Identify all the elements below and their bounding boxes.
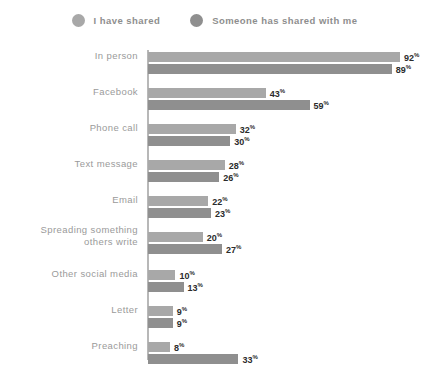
bar-row: 59% (148, 100, 329, 110)
bar-row: 92% (148, 52, 419, 62)
circle-swatch-icon (72, 14, 85, 27)
bar-row: 20% (148, 232, 222, 242)
bar-value-label: 20% (207, 232, 222, 243)
bar-value-label: 33% (242, 354, 257, 365)
bar-row: 33% (148, 354, 258, 364)
bar-row: 23% (148, 208, 230, 218)
bar-value-label: 26% (223, 172, 238, 183)
bar-row: 30% (148, 136, 250, 146)
bar-row: 13% (148, 282, 203, 292)
bar-row: 9% (148, 318, 187, 328)
bar-row: 9% (148, 306, 187, 316)
bar-row: 32% (148, 124, 255, 134)
plot-area: In person 92% 89% Facebook (0, 44, 429, 366)
horizontal-bar-chart: I have shared Someone has shared with me… (0, 0, 429, 378)
bar-row: 27% (148, 244, 241, 254)
category-label-line: Letter (6, 304, 138, 316)
bar-value-label: 43% (270, 88, 285, 99)
bar-group: Letter 9% 9% (0, 304, 429, 334)
bar-value-label: 23% (215, 208, 230, 219)
category-label: Preaching (6, 340, 138, 352)
bar-series-2 (148, 282, 184, 292)
bar-series-1 (148, 124, 236, 134)
circle-swatch-icon (190, 14, 203, 27)
bar-series-2 (148, 136, 230, 146)
category-label-line: Facebook (6, 86, 138, 98)
bar-value-label: 27% (226, 244, 241, 255)
category-label: Spreading something others write (6, 224, 138, 247)
bar-row: 26% (148, 172, 239, 182)
bar-value-label: 59% (314, 100, 329, 111)
category-label-line: In person (6, 50, 138, 62)
category-label-line: others write (6, 236, 138, 248)
bar-series-2 (148, 100, 310, 110)
bar-series-2 (148, 208, 211, 218)
category-label-line: Preaching (6, 340, 138, 352)
bar-row: 8% (148, 342, 184, 352)
category-label: Email (6, 194, 138, 206)
legend-label: I have shared (94, 16, 161, 26)
bar-group: Text message 28% 26% (0, 158, 429, 188)
bar-series-1 (148, 52, 400, 62)
category-label: In person (6, 50, 138, 62)
bar-row: 28% (148, 160, 244, 170)
bar-row: 10% (148, 270, 195, 280)
bar-value-label: 28% (229, 160, 244, 171)
bar-value-label: 8% (174, 342, 184, 353)
bar-value-label: 32% (240, 124, 255, 135)
bar-value-label: 13% (188, 282, 203, 293)
bar-value-label: 30% (234, 136, 249, 147)
bar-value-label: 92% (404, 52, 419, 63)
bar-series-1 (148, 196, 208, 206)
bar-value-label: 22% (212, 196, 227, 207)
bar-series-2 (148, 318, 173, 328)
legend-label: Someone has shared with me (212, 16, 357, 26)
bar-group: In person 92% 89% (0, 50, 429, 80)
bar-group: Email 22% 23% (0, 194, 429, 224)
legend-item-someone-has-shared-with-me: Someone has shared with me (190, 14, 357, 27)
bar-group: Other social media 10% 13% (0, 268, 429, 298)
bar-series-1 (148, 306, 173, 316)
bar-group: Phone call 32% 30% (0, 122, 429, 152)
bar-row: 22% (148, 196, 228, 206)
bar-group: Spreading something others write 20% 27% (0, 230, 429, 260)
bar-row: 43% (148, 88, 285, 98)
category-label: Text message (6, 158, 138, 170)
bar-series-2 (148, 244, 222, 254)
category-label: Letter (6, 304, 138, 316)
category-label-line: Spreading something (6, 224, 138, 236)
bar-group: Facebook 43% 59% (0, 86, 429, 116)
bar-value-label: 89% (396, 64, 411, 75)
bar-series-1 (148, 88, 266, 98)
bar-series-2 (148, 354, 238, 364)
category-label-line: Text message (6, 158, 138, 170)
bar-value-label: 9% (177, 318, 187, 329)
category-label: Other social media (6, 268, 138, 280)
bar-series-2 (148, 64, 392, 74)
category-label-line: Email (6, 194, 138, 206)
bar-group: Preaching 8% 33% (0, 340, 429, 370)
bar-series-1 (148, 232, 203, 242)
bar-value-label: 9% (177, 306, 187, 317)
bar-series-2 (148, 172, 219, 182)
bar-value-label: 10% (179, 270, 194, 281)
legend-item-i-have-shared: I have shared (72, 14, 161, 27)
bar-series-1 (148, 270, 175, 280)
bar-row: 89% (148, 64, 411, 74)
category-label: Phone call (6, 122, 138, 134)
category-label: Facebook (6, 86, 138, 98)
bar-series-1 (148, 160, 225, 170)
bar-series-1 (148, 342, 170, 352)
category-label-line: Phone call (6, 122, 138, 134)
chart-legend: I have shared Someone has shared with me (0, 14, 429, 27)
category-label-line: Other social media (6, 268, 138, 280)
